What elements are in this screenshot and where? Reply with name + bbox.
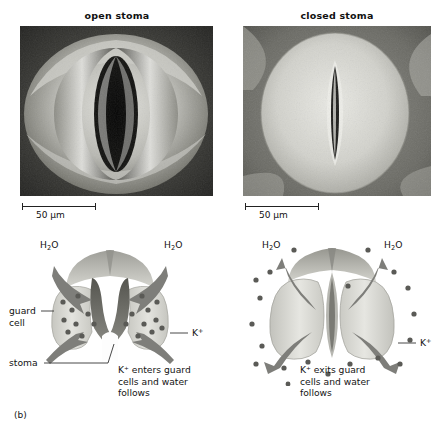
micrograph-open-stoma-image [20, 26, 213, 196]
scale-bar-open-stoma: 50 µm [22, 200, 142, 222]
scale-bar-icon [22, 203, 96, 210]
caption-open-stoma: K⁺ enters guard cells and water follows [118, 364, 228, 399]
panel-title-open-stoma: open stoma [20, 10, 214, 21]
micrograph-closed-stoma [243, 26, 431, 196]
micrograph-open-stoma [20, 26, 213, 196]
figure-part-label: (b) [14, 410, 27, 420]
label-water-right: H2O [384, 239, 402, 252]
guard-cell-right [340, 279, 394, 359]
label-water-left: H2O [262, 239, 280, 252]
label-potassium: K+ [192, 327, 203, 338]
label-guard-cell-line1: guard [9, 305, 36, 316]
scale-bar-closed-stoma: 50 µm [245, 200, 365, 222]
guard-cell-left [270, 279, 324, 359]
caption-closed-stoma: K⁺ exits guard cells and water follows [300, 364, 420, 399]
micrograph-closed-stoma-image [243, 26, 431, 196]
label-guard-cell-line2: cell [9, 317, 25, 328]
scale-bar-label-closed: 50 µm [259, 210, 288, 220]
scale-bar-icon [245, 203, 319, 210]
scale-bar-label-open: 50 µm [36, 210, 65, 220]
label-water-left: H2O [40, 239, 58, 252]
label-stoma: stoma [9, 357, 38, 368]
panel-title-closed-stoma: closed stoma [243, 10, 431, 21]
label-potassium: K+ [420, 337, 431, 348]
label-water-right: H2O [164, 239, 182, 252]
